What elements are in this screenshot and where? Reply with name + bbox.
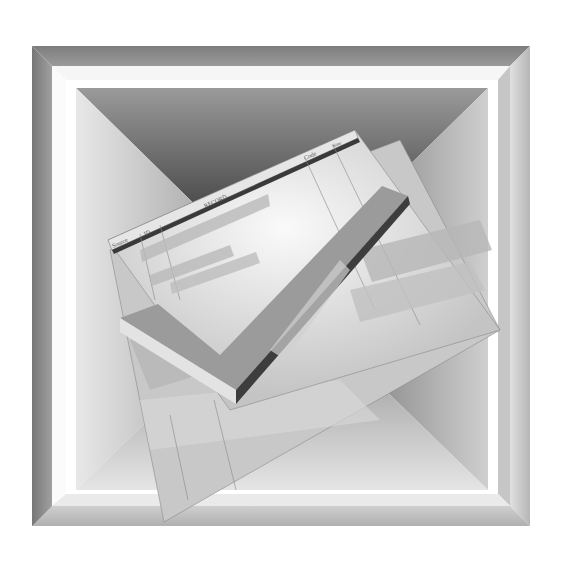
illustration: Source ID RECORD Code Note xyxy=(0,0,562,561)
